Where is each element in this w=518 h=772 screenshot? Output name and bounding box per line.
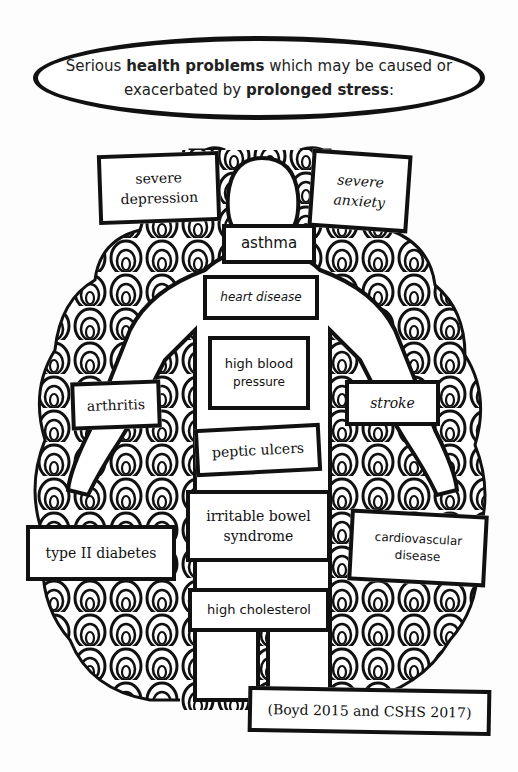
label-high-blood-pressure: high blood pressure xyxy=(208,336,310,410)
label-type-2-diabetes: type II diabetes xyxy=(26,525,176,581)
citation-box: (Boyd 2015 and CSHS 2017) xyxy=(248,686,492,736)
label-asthma: asthma xyxy=(222,224,316,264)
citation-text: (Boyd 2015 and CSHS 2017) xyxy=(267,699,471,723)
label-arthritis: arthritis xyxy=(70,379,162,430)
title-emphasis-prolonged-stress: prolonged stress xyxy=(246,81,389,99)
title-line-2: exacerbated by prolonged stress: xyxy=(124,78,394,102)
label-irritable-bowel-syndrome: irritable bowel syndrome xyxy=(186,490,331,562)
label-severe-anxiety: severe anxiety xyxy=(307,149,412,234)
stress-health-diagram: Serious health problems which may be cau… xyxy=(0,0,518,772)
label-peptic-ulcers: peptic ulcers xyxy=(194,423,322,478)
label-heart-disease: heart disease xyxy=(203,275,319,320)
label-stroke: stroke xyxy=(345,380,440,426)
title-emphasis-health-problems: health problems xyxy=(126,57,264,75)
label-cardiovascular-disease: cardiovascular disease xyxy=(347,508,489,587)
title-line-1: Serious health problems which may be cau… xyxy=(66,54,452,78)
title-speech-bubble: Serious health problems which may be cau… xyxy=(33,36,485,120)
label-high-cholesterol: high cholesterol xyxy=(188,588,330,632)
label-severe-depression: severe depression xyxy=(97,151,221,225)
